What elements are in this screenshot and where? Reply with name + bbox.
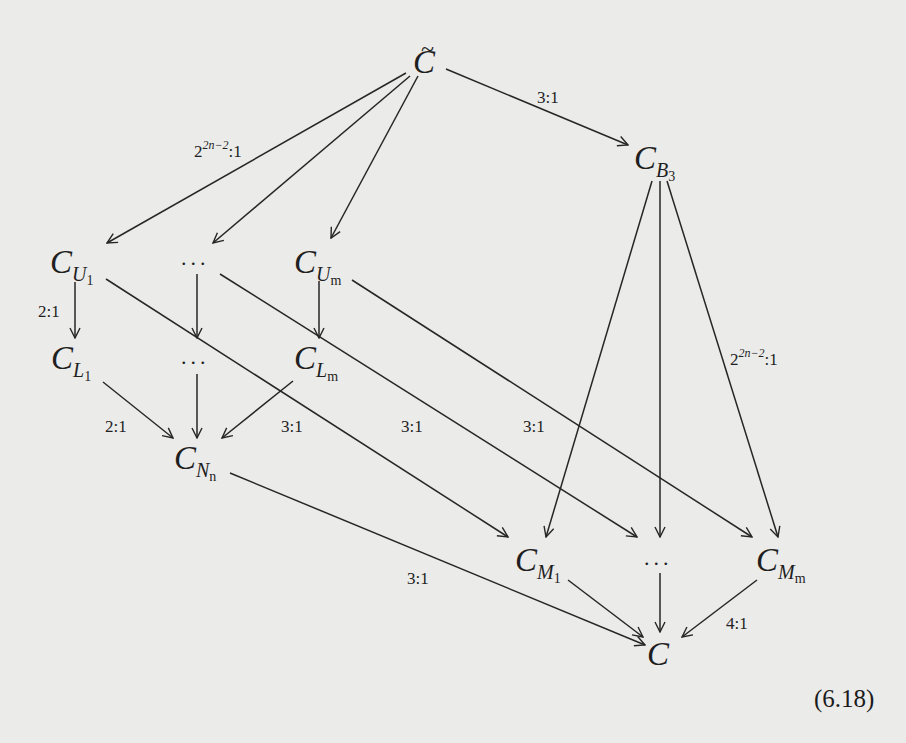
- edge-ctilde-cu1: [107, 73, 406, 243]
- node-c-l1: CL1: [51, 342, 91, 384]
- node-u-dots: ...: [181, 245, 210, 271]
- label-mm-to-c: 4:1: [726, 614, 748, 634]
- node-c-m1: CM1: [515, 544, 561, 586]
- label-l1-to-nn: 2:1: [105, 417, 127, 437]
- node-m-dots: ...: [644, 545, 673, 571]
- node-c-u1: CU1: [50, 246, 93, 288]
- label-u1-to-l1: 2:1: [38, 302, 60, 322]
- label-ctilde-to-u: 22n−2:1: [194, 138, 242, 162]
- edge-cum-cmm: [352, 280, 752, 537]
- node-l-dots: ...: [181, 344, 210, 370]
- node-c-nn: CNn: [174, 442, 216, 484]
- edge-cnn-c: [230, 473, 645, 645]
- node-c: C: [647, 638, 669, 671]
- equation-number: (6.18): [814, 685, 874, 713]
- node-c-b3: CB3: [634, 142, 675, 184]
- label-b3-to-m: 22n−2:1: [730, 346, 778, 370]
- label-udots-to-mdots: 3:1: [401, 417, 423, 437]
- edge-ctilde-udots: [213, 76, 410, 243]
- label-u1-to-m1: 3:1: [281, 417, 303, 437]
- edge-cu1-cm1: [106, 279, 508, 537]
- edge-cb3-cm1: [546, 181, 652, 537]
- label-um-to-mm: 3:1: [523, 417, 545, 437]
- node-c-lm: CLm: [294, 342, 338, 384]
- node-c-mm: CMm: [756, 544, 806, 586]
- label-ctilde-to-b3: 3:1: [537, 88, 559, 108]
- node-c-tilde: ~C: [413, 46, 435, 79]
- node-c-um: CUm: [294, 246, 341, 288]
- tilde-accent: ~: [421, 37, 434, 61]
- edge-udots-mdots: [220, 274, 637, 537]
- edge-ctilde-cum: [331, 76, 418, 238]
- label-nn-to-c: 3:1: [407, 569, 429, 589]
- diagram-arrows: [0, 0, 906, 743]
- commutative-diagram: ~C CB3 CU1 ... CUm CL1 ... CLm CNn CM1 .…: [0, 0, 906, 743]
